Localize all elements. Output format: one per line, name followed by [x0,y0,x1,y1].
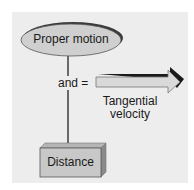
tangential-velocity-label: Tangential velocity [100,95,160,121]
proper-motion-label: Proper motion [21,32,121,46]
operator-label: and = [58,76,88,90]
tangential-label-line2: velocity [100,108,160,121]
box-side-face [101,143,106,177]
box-top-face [40,143,106,148]
distance-label: Distance [40,155,101,169]
tangential-velocity-arrow [96,70,180,93]
